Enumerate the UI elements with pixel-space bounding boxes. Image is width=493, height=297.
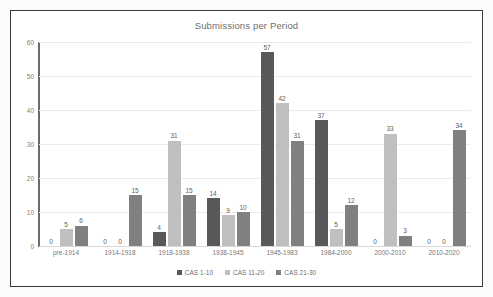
bar-group: 37512	[309, 42, 363, 246]
bar-slot: 34	[453, 42, 466, 246]
bar-value-label: 31	[170, 132, 177, 139]
bar-value-label: 9	[226, 207, 230, 214]
bar-value-label: 0	[49, 238, 53, 245]
bar[interactable]: 9	[222, 215, 235, 246]
bar-group: 574231	[255, 42, 309, 246]
bar-slot: 14	[207, 42, 220, 246]
bar-slot: 0	[99, 42, 112, 246]
bar-group: 43115	[147, 42, 201, 246]
bar-slot: 5	[330, 42, 343, 246]
chart-legend: CAS 1-10CAS 11-20CAS 21-30	[11, 269, 482, 276]
bar[interactable]: 14	[207, 198, 220, 246]
legend-item[interactable]: CAS 1-10	[177, 269, 213, 276]
bar-slot: 3	[399, 42, 412, 246]
bar-value-label: 12	[347, 197, 354, 204]
bar-value-label: 34	[455, 122, 462, 129]
legend-label: CAS 1-10	[185, 269, 213, 276]
y-axis-tick-label: 40	[27, 107, 34, 114]
legend-item[interactable]: CAS 21-30	[276, 269, 316, 276]
y-axis-tick-label: 10	[27, 209, 34, 216]
bar-slot: 10	[237, 42, 250, 246]
x-axis-tick-label: 2010-2020	[417, 249, 471, 263]
bar[interactable]: 33	[384, 134, 397, 246]
y-axis-tick-label: 30	[27, 141, 34, 148]
bar[interactable]: 15	[129, 195, 142, 246]
bar-slot: 15	[129, 42, 142, 246]
bar-value-label: 5	[64, 221, 68, 228]
legend-swatch-icon	[276, 270, 281, 275]
bar-slot: 0	[438, 42, 451, 246]
bar-slot: 33	[384, 42, 397, 246]
bar[interactable]: 34	[453, 130, 466, 246]
bar[interactable]: 31	[291, 141, 304, 246]
bar[interactable]: 3	[399, 236, 412, 246]
chart-card: Submissions per Period 0102030405060 056…	[10, 10, 483, 287]
bar[interactable]: 5	[60, 229, 73, 246]
x-axis-tick-label: 1918-1938	[147, 249, 201, 263]
bar-value-label: 3	[403, 227, 407, 234]
bar-slot: 37	[315, 42, 328, 246]
legend-label: CAS 11-20	[233, 269, 264, 276]
bar-value-label: 15	[185, 187, 192, 194]
plot-area: 0102030405060 05600154311514910574231375…	[39, 42, 471, 246]
bar-value-label: 4	[157, 224, 161, 231]
bar-slot: 31	[168, 42, 181, 246]
bar-slot: 0	[114, 42, 127, 246]
bar-slot: 5	[60, 42, 73, 246]
bar-slot: 15	[183, 42, 196, 246]
bar-value-label: 0	[118, 238, 122, 245]
bar-value-label: 0	[103, 238, 107, 245]
bar[interactable]: 15	[183, 195, 196, 246]
y-axis-tick-label: 60	[27, 39, 34, 46]
gridline-0: 0	[39, 246, 471, 247]
bar-slot: 0	[369, 42, 382, 246]
bar-value-label: 37	[317, 112, 324, 119]
x-axis-tick-label: 1938-1945	[201, 249, 255, 263]
legend-swatch-icon	[177, 270, 182, 275]
bar-slot: 0	[423, 42, 436, 246]
bar-slot: 0	[45, 42, 58, 246]
legend-item[interactable]: CAS 11-20	[225, 269, 264, 276]
bar[interactable]: 57	[261, 52, 274, 246]
bar-slot: 6	[75, 42, 88, 246]
bar[interactable]: 12	[345, 205, 358, 246]
bar-slot: 4	[153, 42, 166, 246]
bar-value-label: 15	[131, 187, 138, 194]
x-axis-labels: pre-19141914-19181918-19381938-19451945-…	[39, 249, 471, 263]
bar-slot: 31	[291, 42, 304, 246]
x-axis-tick-label: 1945-1983	[255, 249, 309, 263]
bar-slot: 57	[261, 42, 274, 246]
bar[interactable]: 37	[315, 120, 328, 246]
bar-groups: 056001543115149105742313751203330034	[39, 42, 471, 246]
bar-slot: 42	[276, 42, 289, 246]
bar-value-label: 14	[209, 190, 216, 197]
x-axis-tick-label: pre-1914	[39, 249, 93, 263]
bar-value-label: 42	[278, 95, 285, 102]
bar-group: 14910	[201, 42, 255, 246]
x-axis-tick-label: 1914-1918	[93, 249, 147, 263]
bar-group: 0015	[93, 42, 147, 246]
bar[interactable]: 31	[168, 141, 181, 246]
bar[interactable]: 42	[276, 103, 289, 246]
bar-value-label: 57	[263, 44, 270, 51]
legend-swatch-icon	[225, 270, 230, 275]
bar[interactable]: 4	[153, 232, 166, 246]
bar-group: 056	[39, 42, 93, 246]
screenshot-root: Submissions per Period 0102030405060 056…	[0, 0, 493, 297]
x-axis-tick-label: 2000-2010	[363, 249, 417, 263]
legend-label: CAS 21-30	[284, 269, 316, 276]
y-axis-tick-label: 20	[27, 175, 34, 182]
bar[interactable]: 10	[237, 212, 250, 246]
y-axis-tick-label: 0	[30, 243, 34, 250]
bar-slot: 12	[345, 42, 358, 246]
x-axis-tick-label: 1984-2000	[309, 249, 363, 263]
bar-group: 0333	[363, 42, 417, 246]
bar-value-label: 6	[79, 217, 83, 224]
bar[interactable]: 5	[330, 229, 343, 246]
bar-group: 0034	[417, 42, 471, 246]
bar[interactable]: 6	[75, 226, 88, 246]
bar-value-label: 0	[427, 238, 431, 245]
chart-title: Submissions per Period	[11, 20, 482, 31]
y-axis-tick-label: 50	[27, 73, 34, 80]
bar-value-label: 10	[239, 204, 246, 211]
